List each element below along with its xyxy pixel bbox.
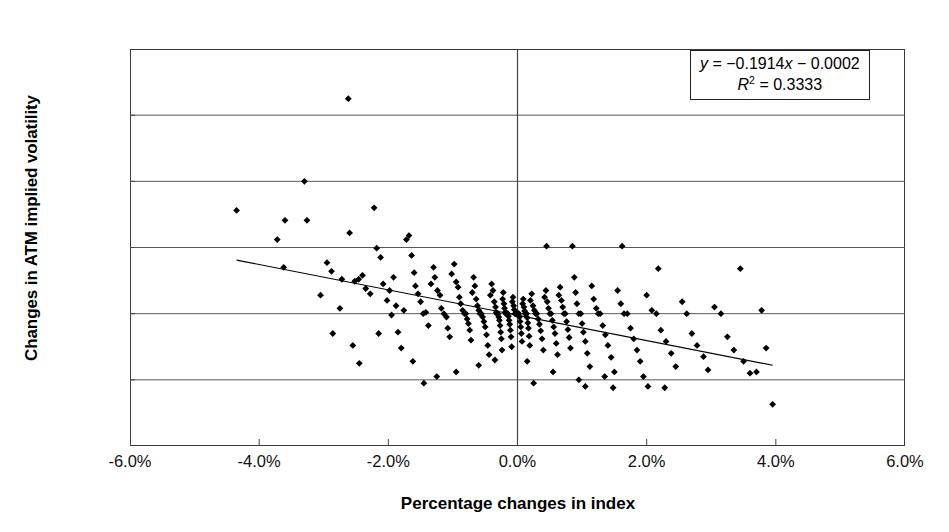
- equation-line: y = −0.1914x − 0.0002: [700, 54, 860, 74]
- data-point: [304, 217, 311, 224]
- x-tick-label: 2.0%: [577, 452, 717, 471]
- data-point: [705, 367, 712, 374]
- data-point: [483, 331, 490, 338]
- data-point: [683, 310, 690, 317]
- data-point: [398, 345, 405, 352]
- data-point: [582, 383, 589, 390]
- data-point: [575, 376, 582, 383]
- data-point: [724, 333, 731, 340]
- data-point: [579, 320, 586, 327]
- data-point: [345, 95, 352, 102]
- data-point: [233, 207, 240, 214]
- scatter-points: [233, 95, 776, 407]
- data-point: [471, 282, 478, 289]
- x-tick-label: 0.0%: [448, 452, 588, 471]
- data-point: [433, 373, 440, 380]
- data-point: [500, 289, 507, 296]
- data-point: [590, 296, 597, 303]
- equation-body: = −0.1914: [708, 55, 785, 72]
- data-point: [605, 342, 612, 349]
- data-point: [655, 265, 662, 272]
- data-point: [554, 351, 561, 358]
- equation-y-symbol: y: [700, 55, 708, 72]
- data-point: [448, 271, 455, 278]
- data-point: [526, 333, 533, 340]
- data-point: [672, 363, 679, 370]
- data-point: [451, 261, 458, 268]
- data-point: [537, 327, 544, 334]
- x-tick-label: -6.0%: [60, 452, 200, 471]
- data-point: [498, 335, 505, 342]
- data-point: [530, 380, 537, 387]
- data-point: [508, 343, 515, 350]
- data-point: [617, 300, 624, 307]
- data-point: [497, 322, 504, 329]
- data-point: [627, 325, 634, 332]
- data-point: [694, 342, 701, 349]
- data-point: [488, 280, 495, 287]
- data-point: [643, 292, 650, 299]
- data-point: [388, 312, 395, 319]
- data-point: [718, 310, 725, 317]
- data-point: [346, 230, 353, 237]
- data-point: [431, 274, 438, 281]
- x-tick-label: 6.0%: [835, 452, 949, 471]
- data-point: [711, 304, 718, 311]
- data-point: [572, 289, 579, 296]
- data-point: [497, 329, 504, 336]
- data-point: [536, 321, 543, 328]
- data-point: [329, 330, 336, 337]
- data-point: [539, 335, 546, 342]
- data-point: [430, 264, 437, 271]
- data-point: [453, 368, 460, 375]
- data-point: [524, 320, 531, 327]
- data-point: [373, 245, 380, 252]
- data-point: [599, 322, 606, 329]
- data-point: [564, 326, 571, 333]
- data-point: [380, 280, 387, 287]
- data-point: [274, 236, 281, 243]
- data-point: [614, 287, 621, 294]
- x-tick-label: -2.0%: [318, 452, 458, 471]
- data-point: [730, 347, 737, 354]
- data-point: [524, 358, 531, 365]
- data-point: [349, 342, 356, 349]
- data-point: [507, 327, 514, 334]
- data-point: [550, 324, 557, 331]
- data-point: [356, 360, 363, 367]
- data-point: [550, 368, 557, 375]
- data-point: [393, 302, 400, 309]
- data-point: [567, 345, 574, 352]
- data-point: [400, 307, 407, 314]
- data-point: [763, 345, 770, 352]
- data-point: [758, 307, 765, 314]
- data-point: [584, 350, 591, 357]
- data-point: [470, 274, 477, 281]
- data-point: [679, 298, 686, 305]
- data-point: [324, 259, 331, 266]
- r-squared-line: R2 = 0.3333: [700, 74, 860, 95]
- data-point: [525, 325, 532, 332]
- data-point: [336, 305, 343, 312]
- data-point: [491, 298, 498, 305]
- data-point: [491, 357, 498, 364]
- data-point: [557, 284, 564, 291]
- data-point: [395, 329, 402, 336]
- data-point: [580, 329, 587, 336]
- equation-x-symbol: x: [785, 55, 793, 72]
- data-point: [317, 292, 324, 299]
- x-tick-label: 4.0%: [706, 452, 846, 471]
- data-point: [384, 297, 391, 304]
- data-point: [543, 243, 550, 250]
- data-point: [475, 362, 482, 369]
- data-point: [668, 350, 675, 357]
- data-point: [444, 325, 451, 332]
- data-point: [499, 347, 506, 354]
- data-point: [747, 370, 754, 377]
- data-point: [637, 358, 644, 365]
- data-point: [412, 282, 419, 289]
- data-point: [569, 243, 576, 250]
- data-point: [420, 380, 427, 387]
- data-point: [301, 178, 308, 185]
- data-point: [562, 310, 569, 317]
